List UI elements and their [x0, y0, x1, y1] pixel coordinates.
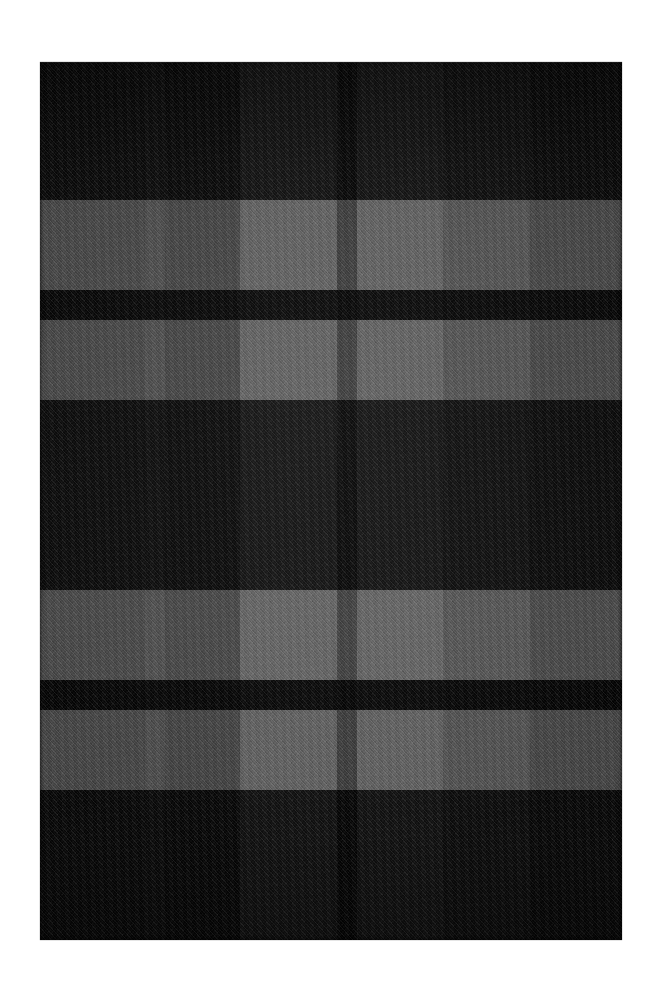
- weft-band-5: [40, 400, 622, 590]
- weft-band-1: [40, 62, 622, 200]
- weft-band-7: [40, 680, 622, 710]
- plaid-rug: [40, 62, 622, 940]
- weft-stripe-layer: [40, 62, 622, 940]
- image-canvas: [0, 0, 663, 998]
- weft-band-8: [40, 710, 622, 790]
- weft-band-4: [40, 320, 622, 400]
- weft-band-3: [40, 290, 622, 320]
- weft-band-2: [40, 200, 622, 290]
- weft-band-9: [40, 790, 622, 940]
- weft-band-6: [40, 590, 622, 680]
